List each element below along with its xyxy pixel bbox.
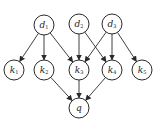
node-label-subscript: 1: [15, 69, 18, 75]
node-label-subscript: 5: [143, 69, 146, 75]
node-label-k1: k1: [4, 63, 24, 77]
edge-d1-to-k1: [20, 33, 39, 61]
node-label-k2: k2: [34, 63, 54, 77]
node-label-k3: k3: [69, 63, 89, 77]
node-label-subscript: 3: [80, 69, 83, 75]
node-label-subscript: 2: [45, 69, 48, 75]
node-label-d2: d2: [69, 17, 89, 31]
node-label-q: q: [69, 101, 89, 115]
node-label-k5: k5: [132, 63, 152, 77]
edge-k2-to-q: [51, 77, 72, 100]
edge-d1-to-k3: [50, 33, 73, 62]
node-label-subscript: 2: [80, 23, 83, 29]
node-label-d3: d3: [102, 17, 122, 31]
node-label-base: q: [76, 103, 82, 113]
edge-k4-to-q: [86, 78, 106, 101]
node-label-k4: k4: [102, 63, 122, 77]
node-label-subscript: 3: [113, 23, 116, 29]
node-label-d1: d1: [34, 18, 54, 32]
node-label-subscript: 1: [45, 24, 48, 30]
edge-d3-to-k5: [117, 32, 136, 61]
node-label-subscript: 4: [113, 69, 116, 75]
bayesian-network-diagram: d1d2d3k1k2k3k4k5q: [0, 0, 160, 132]
